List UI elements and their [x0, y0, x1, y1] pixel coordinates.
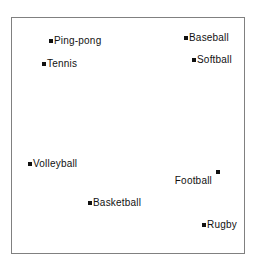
square-marker-icon [88, 201, 92, 205]
square-marker-icon [192, 58, 196, 62]
point-label: Tennis [47, 59, 77, 69]
point-label: Basketball [93, 198, 141, 208]
square-marker-icon [28, 162, 32, 166]
point-baseball: Baseball [184, 33, 229, 43]
point-label: Rugby [207, 220, 237, 230]
square-marker-icon [42, 62, 46, 66]
square-marker-icon [49, 39, 53, 43]
point-label: Volleyball [33, 159, 77, 169]
point-rugby: Rugby [202, 220, 237, 230]
point-label: Football [175, 176, 212, 186]
point-label: Softball [197, 55, 232, 65]
point-basketball: Basketball [88, 198, 141, 208]
point-volleyball: Volleyball [28, 159, 77, 169]
point-label: Baseball [189, 33, 229, 43]
point-softball: Softball [192, 55, 232, 65]
square-marker-icon [202, 223, 206, 227]
point-ping-pong: Ping-pong [49, 36, 101, 46]
square-marker-icon [216, 170, 220, 174]
point-label: Ping-pong [54, 36, 101, 46]
point-tennis: Tennis [42, 59, 77, 69]
square-marker-icon [184, 36, 188, 40]
